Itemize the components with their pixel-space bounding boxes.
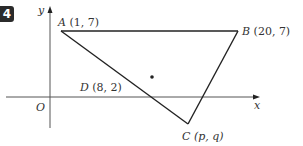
triangle-abc xyxy=(61,31,238,124)
y-axis-label: y xyxy=(37,4,45,17)
point-c-label: C (p, q) xyxy=(182,130,224,143)
side-bc xyxy=(188,31,238,124)
point-d-label: D (8, 2) xyxy=(79,81,122,94)
origin-label: O xyxy=(36,101,45,114)
y-axis-arrow-icon xyxy=(48,6,53,13)
side-ac xyxy=(61,31,188,124)
point-a-label: A (1, 7) xyxy=(57,16,99,29)
x-axis-label: x xyxy=(254,99,261,112)
point-d-dot xyxy=(150,75,154,79)
triangle-diagram: y x O A (1, 7) B (20, 7) C (p, q) D (8, … xyxy=(0,0,303,146)
point-b-label: B (20, 7) xyxy=(241,25,290,38)
